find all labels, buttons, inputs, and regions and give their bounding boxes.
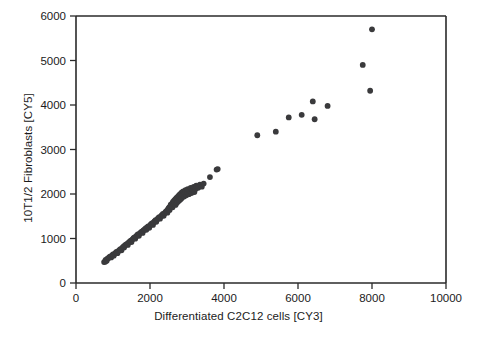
data-point: [299, 112, 305, 118]
y-tick-label: 5000: [40, 55, 66, 67]
plot-area: 0200040006000800010000010002000300040005…: [0, 0, 477, 337]
x-axis-title: Differentiated C2C12 cells [CY3]: [0, 310, 477, 322]
scatter-chart: 0200040006000800010000010002000300040005…: [0, 0, 477, 337]
x-tick-label: 2000: [137, 292, 163, 304]
data-point: [254, 132, 260, 138]
data-point: [369, 26, 375, 32]
data-point: [312, 116, 318, 122]
data-point: [367, 88, 373, 94]
data-point: [310, 99, 316, 105]
x-tick-label: 4000: [211, 292, 237, 304]
y-axis-title: 10T1/2 Fibroblasts [CY5]: [22, 48, 34, 268]
data-series: [101, 26, 375, 265]
data-point: [360, 62, 366, 68]
y-tick-label: 0: [60, 277, 66, 289]
y-tick-label: 1000: [40, 233, 66, 245]
data-point: [273, 129, 279, 135]
y-tick-label: 6000: [40, 10, 66, 22]
x-tick-label: 6000: [285, 292, 311, 304]
data-point: [325, 103, 331, 109]
x-tick-label: 0: [73, 292, 79, 304]
x-tick-label: 10000: [430, 292, 462, 304]
data-point: [207, 174, 213, 180]
data-point: [286, 115, 292, 121]
data-point: [201, 181, 207, 187]
y-tick-label: 3000: [40, 144, 66, 156]
x-tick-label: 8000: [359, 292, 385, 304]
y-tick-label: 4000: [40, 99, 66, 111]
y-tick-label: 2000: [40, 188, 66, 200]
data-point: [215, 166, 221, 172]
